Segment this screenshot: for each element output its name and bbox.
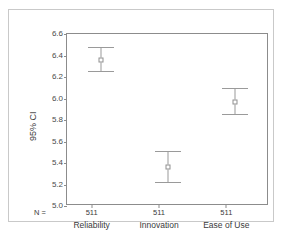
mean-marker bbox=[98, 57, 103, 62]
y-axis-tick-6.4: 6.4 bbox=[52, 52, 67, 60]
error-bar-lower-cap bbox=[222, 114, 248, 115]
error-bar-chart-screenshot: 95% CI 5.05.25.45.65.86.06.26.46.6 N = 5… bbox=[0, 0, 282, 231]
category-label-reliability: Reliability bbox=[73, 221, 109, 230]
error-bar-upper-cap bbox=[88, 47, 114, 48]
y-axis-tick-5.6: 5.6 bbox=[52, 138, 67, 146]
chart-panel: 95% CI 5.05.25.45.65.86.06.26.46.6 N = 5… bbox=[8, 9, 274, 222]
plot-area: 5.05.25.45.65.86.06.26.46.6 bbox=[66, 33, 268, 205]
n-count-ease-of-use: 511 bbox=[220, 209, 232, 217]
error-bar-lower-cap bbox=[88, 71, 114, 72]
y-axis-tick-5.4: 5.4 bbox=[52, 159, 67, 167]
n-count-innovation: 511 bbox=[153, 209, 165, 217]
n-prefix-label: N = bbox=[34, 209, 46, 217]
mean-marker bbox=[233, 99, 238, 104]
error-bar-reliability bbox=[88, 34, 114, 206]
error-bar-innovation bbox=[155, 34, 181, 206]
category-label-ease-of-use: Ease of Use bbox=[203, 221, 249, 230]
error-bar-lower-cap bbox=[155, 182, 181, 183]
error-bar-upper-cap bbox=[155, 151, 181, 152]
y-axis-tick-5.8: 5.8 bbox=[52, 116, 67, 124]
error-bar-upper-cap bbox=[222, 88, 248, 89]
y-axis-tick-5.2: 5.2 bbox=[52, 181, 67, 189]
clipped-title-text bbox=[8, 0, 274, 7]
n-count-reliability: 511 bbox=[86, 209, 98, 217]
category-label-innovation: Innovation bbox=[139, 221, 178, 230]
y-axis-tick-6.6: 6.6 bbox=[52, 30, 67, 38]
y-axis-tick-5.0: 5.0 bbox=[52, 202, 67, 210]
y-axis-tick-6.0: 6.0 bbox=[52, 95, 67, 103]
y-axis-title: 95% CI bbox=[29, 111, 38, 141]
mean-marker bbox=[166, 165, 171, 170]
y-axis-tick-6.2: 6.2 bbox=[52, 73, 67, 81]
error-bar-ease-of-use bbox=[222, 34, 248, 206]
